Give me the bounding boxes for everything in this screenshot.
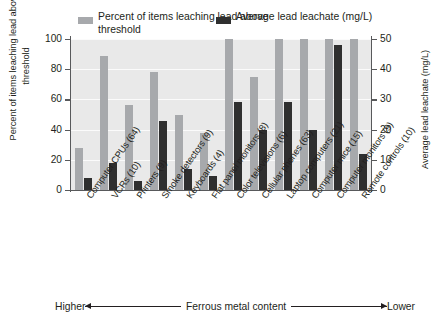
ferrous-content-annotation: Higher Ferrous metal content Lower [55, 297, 415, 315]
arrow-right [291, 303, 387, 310]
annotation-center-label: Ferrous metal content [181, 301, 291, 312]
annotation-lower-label: Lower [387, 301, 415, 312]
arrow-left-head-icon [85, 303, 91, 309]
annotation-higher-label: Higher [55, 301, 85, 312]
x-axis-tick-labels: Computer CPUs (64)VCRs (10)Printers (9)S… [0, 0, 443, 325]
annotation-arrow-row: Ferrous metal content [85, 301, 387, 312]
arrow-right-head-icon [381, 303, 387, 309]
chart-figure: Percent of items leaching lead above thr… [0, 0, 443, 325]
arrow-left [85, 303, 181, 310]
arrow-right-line [291, 306, 387, 307]
arrow-left-line [85, 306, 181, 307]
